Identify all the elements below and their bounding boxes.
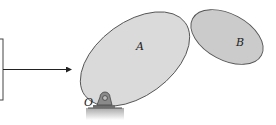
body-b-label: B <box>235 36 244 49</box>
diagram-canvas: B A O <box>0 0 276 125</box>
body-b: B <box>182 0 272 76</box>
body-a-label: A <box>135 40 144 53</box>
left-block <box>0 39 3 100</box>
ground <box>86 108 124 120</box>
pin-icon <box>103 96 108 101</box>
pivot-label: O <box>84 96 93 109</box>
